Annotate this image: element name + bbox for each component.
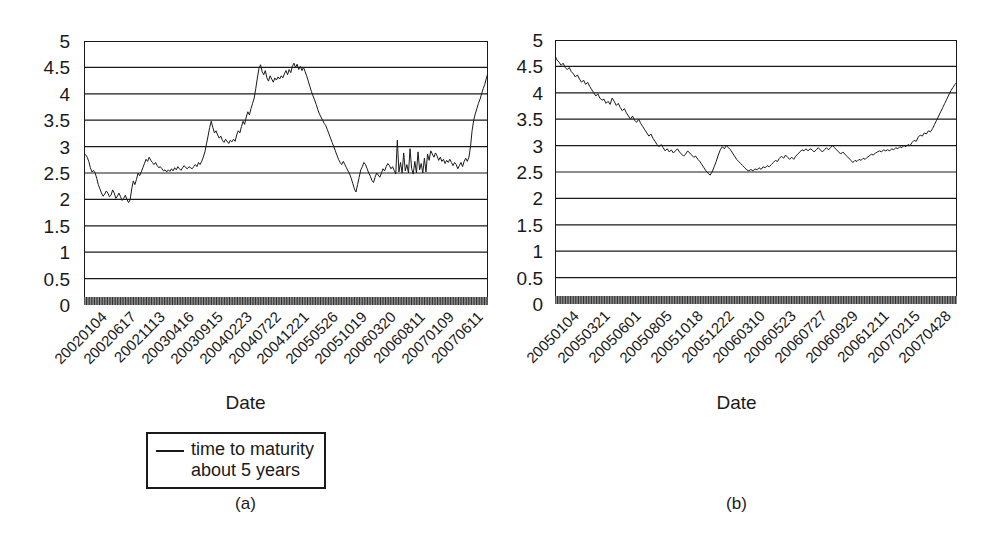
y-tick-label: 3.5 bbox=[44, 111, 70, 130]
y-tick-label: 2.5 bbox=[517, 163, 543, 182]
gridlines-a bbox=[84, 67, 488, 278]
x-axis-labels-b: 2005010420050321200506012005080520051018… bbox=[555, 307, 957, 397]
y-tick-label: 3.5 bbox=[517, 110, 543, 129]
y-tick-label: 1.5 bbox=[517, 215, 543, 234]
plot-svg-b bbox=[555, 40, 957, 304]
data-line-b bbox=[555, 56, 957, 175]
y-tick-label: 3 bbox=[532, 136, 543, 155]
x-axis-tick-band-b bbox=[555, 296, 957, 304]
gridlines-b bbox=[555, 66, 957, 277]
data-line-a bbox=[84, 63, 488, 202]
y-tick-label: 2.5 bbox=[44, 164, 70, 183]
chart-panel-a: 00.511.522.533.544.55 200201042002061720… bbox=[0, 0, 491, 538]
y-tick-label: 5 bbox=[59, 32, 70, 51]
y-tick-label: 1 bbox=[59, 243, 70, 262]
plot-area-b bbox=[555, 40, 957, 304]
legend-a: time to maturity about 5 years bbox=[146, 432, 326, 489]
plot-area-a bbox=[84, 41, 488, 305]
y-tick-label: 2 bbox=[532, 189, 543, 208]
plot-svg-a bbox=[84, 41, 488, 305]
y-tick-label: 4 bbox=[532, 83, 543, 102]
y-tick-label: 2 bbox=[59, 190, 70, 209]
chart-panel-b: 00.511.522.533.544.55 200501042005032120… bbox=[491, 0, 982, 538]
legend-label-a: time to maturity about 5 years bbox=[191, 439, 314, 481]
y-axis-labels-a: 00.511.522.533.544.55 bbox=[18, 41, 76, 305]
y-tick-label: 3 bbox=[59, 137, 70, 156]
y-tick-label: 1.5 bbox=[44, 216, 70, 235]
y-tick-label: 0 bbox=[59, 296, 70, 315]
subcaption-a: (a) bbox=[0, 494, 491, 514]
y-tick-label: 4.5 bbox=[44, 58, 70, 77]
y-tick-label: 0.5 bbox=[44, 269, 70, 288]
y-tick-label: 5 bbox=[532, 31, 543, 50]
y-tick-label: 0 bbox=[532, 295, 543, 314]
x-axis-title-b: Date bbox=[491, 392, 982, 414]
x-axis-title-a: Date bbox=[0, 392, 491, 414]
legend-line-swatch-a bbox=[156, 450, 184, 452]
figure-container: 00.511.522.533.544.55 200201042002061720… bbox=[0, 0, 982, 538]
y-tick-label: 4 bbox=[59, 84, 70, 103]
subcaption-b: (b) bbox=[491, 494, 982, 514]
x-axis-tick-band-a bbox=[84, 297, 488, 305]
y-tick-label: 4.5 bbox=[517, 57, 543, 76]
y-tick-label: 1 bbox=[532, 242, 543, 261]
x-axis-labels-a: 2002010420020617200211132003041620030915… bbox=[84, 308, 488, 398]
y-axis-labels-b: 00.511.522.533.544.55 bbox=[491, 40, 549, 304]
y-tick-label: 0.5 bbox=[517, 268, 543, 287]
